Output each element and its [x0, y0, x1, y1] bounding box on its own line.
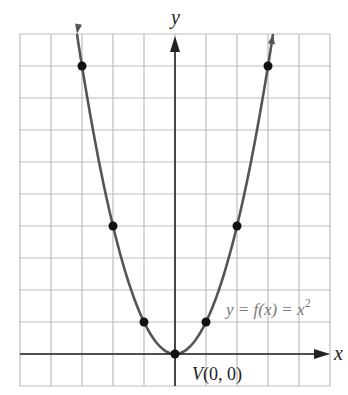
- x-axis-label: x: [333, 342, 343, 364]
- data-point: [233, 222, 242, 231]
- data-point: [78, 62, 87, 71]
- curve-arrow-icon: [75, 24, 82, 34]
- parabola-chart: y x y = f(x) = x2 V(0, 0): [0, 0, 348, 395]
- y-axis-label: y: [169, 6, 180, 29]
- data-point: [109, 222, 118, 231]
- data-point: [264, 62, 273, 71]
- function-label: y = f(x) = x2: [224, 296, 311, 319]
- vertex-label: V(0, 0): [192, 364, 242, 385]
- data-point: [171, 350, 180, 359]
- data-point: [202, 318, 211, 327]
- data-point: [140, 318, 149, 327]
- x-axis-arrow-icon: [314, 349, 330, 359]
- y-axis-arrow-icon: [170, 36, 180, 52]
